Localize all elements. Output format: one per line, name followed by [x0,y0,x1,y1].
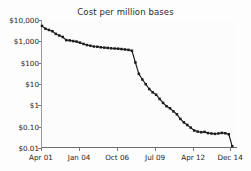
data-point-marker [193,129,196,132]
x-tick-mark [117,148,118,151]
data-point-marker [155,93,158,96]
data-point-marker [51,30,54,33]
x-tick-label: Jul 09 [145,153,165,162]
data-point-marker [82,43,85,46]
y-tick-mark [38,63,41,64]
data-point-marker [117,47,120,50]
data-point-marker [145,83,148,86]
data-point-marker [62,36,65,39]
data-point-marker [210,132,213,135]
data-point-marker [214,133,217,136]
data-point-marker [58,34,61,37]
data-point-marker [48,29,51,32]
chart-screenshot: Cost per million bases $10,000$1,000$100… [0,0,251,171]
data-point-marker [100,46,103,49]
data-point-marker [158,98,161,101]
data-point-marker [75,40,78,43]
data-point-marker [124,48,127,51]
plot-area [41,20,237,148]
data-point-marker [179,118,182,121]
y-tick-label: $0.10 [1,122,39,131]
y-tick-mark [38,105,41,106]
data-point-marker [120,48,123,51]
data-point-marker [65,39,68,42]
data-point-marker [224,132,227,135]
data-point-marker [207,132,210,135]
y-tick-mark [38,84,41,85]
x-tick-label: Dec 14 [217,153,242,162]
y-axis: $10,000$1,000$100$10$1$0.10$0.01 [0,0,39,171]
y-tick-label: $100 [1,58,39,67]
data-point-marker [183,121,186,124]
y-tick-label: $10 [1,80,39,89]
data-point-marker [189,126,192,129]
data-point-marker [113,47,116,50]
data-point-marker [127,49,130,52]
data-point-marker [41,25,44,28]
data-point-marker [79,41,82,44]
data-point-marker [172,110,175,113]
cost-per-million-bases-series [42,20,238,148]
data-point-marker [148,88,151,91]
data-point-marker [134,61,137,64]
data-point-marker [110,47,113,50]
data-point-marker [89,44,92,47]
data-point-marker [169,107,172,110]
data-point-marker [231,145,234,148]
data-point-marker [228,133,231,136]
data-point-marker [162,102,165,105]
data-point-marker [55,33,58,36]
data-point-marker [131,49,134,52]
x-tick-mark [155,148,156,151]
x-tick-mark [41,148,42,151]
data-point-marker [68,39,71,42]
data-point-marker [151,91,154,94]
data-point-marker [138,73,141,76]
data-point-marker [72,40,75,43]
data-point-marker [200,131,203,134]
data-point-marker [96,46,99,49]
series-line [42,26,232,146]
data-point-marker [186,124,189,127]
x-tick-label: Jan 04 [68,153,91,162]
data-point-marker [93,45,96,48]
data-point-marker [44,27,47,30]
y-tick-mark [38,20,41,21]
series-markers [41,25,234,148]
data-point-marker [141,78,144,81]
x-tick-label: Oct 06 [105,153,129,162]
data-point-marker [165,105,168,108]
data-point-marker [103,46,106,49]
data-point-marker [86,44,89,47]
x-tick-label: Apr 12 [181,153,205,162]
y-tick-label: $1 [1,101,39,110]
x-tick-label: Apr 01 [29,153,53,162]
data-point-marker [176,113,179,116]
y-tick-mark [38,41,41,42]
data-point-marker [217,132,220,135]
y-tick-label: $10,000 [1,16,39,25]
x-tick-mark [193,148,194,151]
data-point-marker [203,131,206,134]
data-point-marker [196,130,199,133]
x-tick-mark [230,148,231,151]
x-tick-mark [79,148,80,151]
data-point-marker [221,132,224,135]
y-tick-label: $1,000 [1,37,39,46]
y-tick-label: $0.01 [1,144,39,153]
y-tick-mark [38,127,41,128]
data-point-marker [106,47,109,50]
